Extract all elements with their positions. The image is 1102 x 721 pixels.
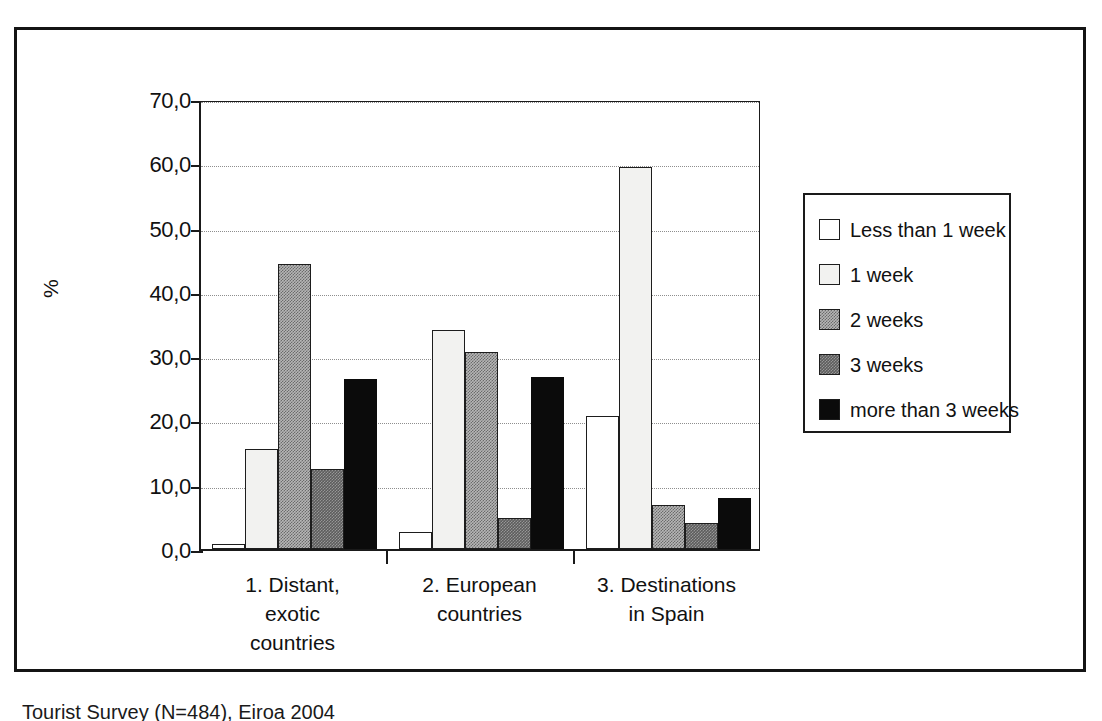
bar-group [201,102,388,549]
bar [245,449,278,549]
y-axis-tick-label: 70,0 [149,90,191,112]
y-axis-tick-label: 40,0 [149,283,191,305]
bar [498,518,531,549]
legend-item-label: 3 weeks [850,355,923,375]
x-axis-category-label-line: 1. Distant, [199,570,386,599]
x-axis-category-label-line: 2. European [386,570,573,599]
x-axis-category-label-line: 3. Destinations [573,570,760,599]
legend-swatch-icon [819,264,840,285]
bar [432,330,465,549]
y-axis-tick-labels: 70,060,050,040,030,020,010,00,0 [103,30,191,669]
x-axis-category-label-line: exotic [199,599,386,628]
bar [718,498,751,549]
bar-group [575,102,762,549]
bar [685,523,718,549]
x-axis-tick-mark [386,551,388,564]
y-axis-tick-label: 60,0 [149,154,191,176]
bar [619,167,652,550]
bar [399,532,432,549]
legend-swatch-icon [819,309,840,330]
x-axis-category-label: 2. Europeancountries [386,570,573,628]
figure-caption: Tourist Survey (N=484), Eiroa 2004 [22,700,335,721]
x-axis-category-label-line: in Spain [573,599,760,628]
x-axis-category-label-line: countries [386,599,573,628]
legend-item-label: more than 3 weeks [850,400,1019,420]
y-axis-tick-label: 50,0 [149,219,191,241]
legend-item[interactable]: Less than 1 week [819,207,1009,252]
y-axis-tick-label: 30,0 [149,347,191,369]
y-axis-title: % [39,279,63,298]
y-axis-tick-label: 20,0 [149,411,191,433]
legend-item-label: 1 week [850,265,913,285]
x-axis-tick-mark [573,551,575,564]
legend-item[interactable]: 2 weeks [819,297,1009,342]
legend-item-label: Less than 1 week [850,220,1006,240]
bar-chart: % 70,060,050,040,030,020,010,00,0 1. Dis… [17,30,1083,669]
bar [586,416,619,549]
legend-swatch-icon [819,399,840,420]
bar [278,264,311,549]
legend-swatch-icon [819,354,840,375]
plot-area [199,101,760,551]
y-axis-tick-label: 0,0 [161,540,191,562]
bar [212,544,245,549]
bar [652,505,685,549]
bar [344,379,377,549]
legend-item[interactable]: 1 week [819,252,1009,297]
legend-item[interactable]: more than 3 weeks [819,387,1009,432]
bar [311,469,344,549]
y-axis-tick-label: 10,0 [149,476,191,498]
legend-swatch-icon [819,219,840,240]
legend-item[interactable]: 3 weeks [819,342,1009,387]
bar [465,352,498,549]
bar-group [388,102,575,549]
chart-legend: Less than 1 week1 week2 weeks3 weeksmore… [803,193,1011,433]
x-axis-category-label: 3. Destinationsin Spain [573,570,760,628]
x-axis-category-label-line: countries [199,628,386,657]
bar [531,377,564,549]
x-axis-category-label: 1. Distant,exoticcountries [199,570,386,657]
y-axis-tick-mark [191,551,203,553]
legend-item-label: 2 weeks [850,310,923,330]
figure-frame: % 70,060,050,040,030,020,010,00,0 1. Dis… [14,27,1086,672]
